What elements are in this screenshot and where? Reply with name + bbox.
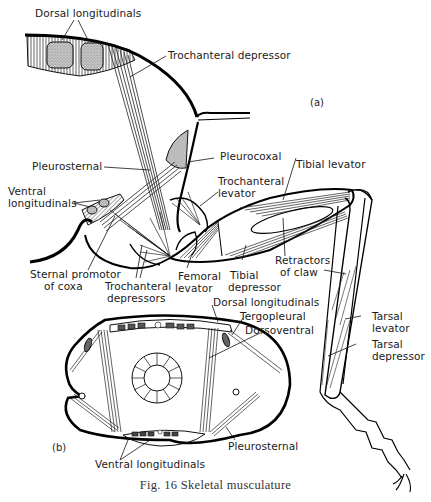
label-ventral-longitudinals-a-line1: Ventral xyxy=(8,185,46,197)
label-tarsal-depressor-line2: depressor xyxy=(372,350,425,362)
label-femoral-levator-line2: levator xyxy=(175,282,213,294)
label-tibial-depressor-line2: depressor xyxy=(228,281,281,293)
label-sternal-promotor-line1: Sternal promotor xyxy=(30,268,121,280)
tarsus-outline xyxy=(320,392,410,478)
label-dorsoventral: Dorsoventral xyxy=(245,324,314,336)
label-trochanteral-depressors-line1: Trochanteral xyxy=(105,280,171,292)
dorsal-longitudinal-muscle-1 xyxy=(47,42,73,68)
dorsal-longitudinals-b xyxy=(118,322,194,330)
label-dorsal-longitudinals-a: Dorsal longitudinals xyxy=(35,7,141,19)
label-tibial-levator: Tibial levator xyxy=(296,158,366,170)
label-trochanteral-depressors-line2: depressors xyxy=(107,292,166,304)
label-retractors-of-claw-line1: Retractors xyxy=(275,254,330,266)
panel-a-tag: (a) xyxy=(310,97,324,108)
label-pleurosternal-a: Pleurosternal xyxy=(32,160,102,172)
dorsal-longitudinal-muscle-2 xyxy=(81,43,103,70)
sternum-outline xyxy=(30,220,92,262)
pleurosternal-muscle-b xyxy=(70,392,260,436)
trochanteral-levator-muscle xyxy=(172,192,200,225)
label-pleurocoxal: Pleurocoxal xyxy=(220,150,281,162)
label-tarsal-levator-line1: Tarsal xyxy=(372,310,403,322)
panel-b-tag: (b) xyxy=(52,442,66,453)
label-pleurosternal-b: Pleurosternal xyxy=(228,440,298,452)
figure-caption: Fig. 16 Skeletal musculature xyxy=(0,478,431,493)
femoral-levator-muscle xyxy=(180,222,218,258)
label-ventral-longitudinals-b: Ventral longitudinals xyxy=(95,458,205,470)
label-tarsal-depressor-line1: Tarsal xyxy=(372,338,403,350)
skeletal-musculature-diagram xyxy=(0,0,431,502)
label-trochanteral-depressor: Trochanteral depressor xyxy=(168,49,291,61)
label-tibial-depressor-line1: Tibial xyxy=(230,269,259,281)
tibial-levator-muscle xyxy=(240,192,350,216)
label-retractors-of-claw-line2: of claw xyxy=(280,266,318,278)
panel-a-thorax xyxy=(25,35,411,492)
label-sternal-promotor-line2: of coxa xyxy=(44,280,83,292)
label-ventral-longitudinals-a-line2: longitudinals xyxy=(8,197,77,209)
label-dorsal-longitudinals-b: Dorsal longitudinals xyxy=(213,296,319,308)
dorsoventral-muscle-left xyxy=(98,330,121,432)
dorsoventral-muscle-right xyxy=(200,328,218,432)
label-femoral-levator-line1: Femoral xyxy=(178,270,221,282)
label-tergopleural: Tergopleural xyxy=(240,310,306,322)
label-tarsal-levator-line2: levator xyxy=(372,322,410,334)
label-trochanteral-levator-line2: levator xyxy=(218,187,256,199)
label-trochanteral-levator-line1: Trochanteral xyxy=(218,175,284,187)
